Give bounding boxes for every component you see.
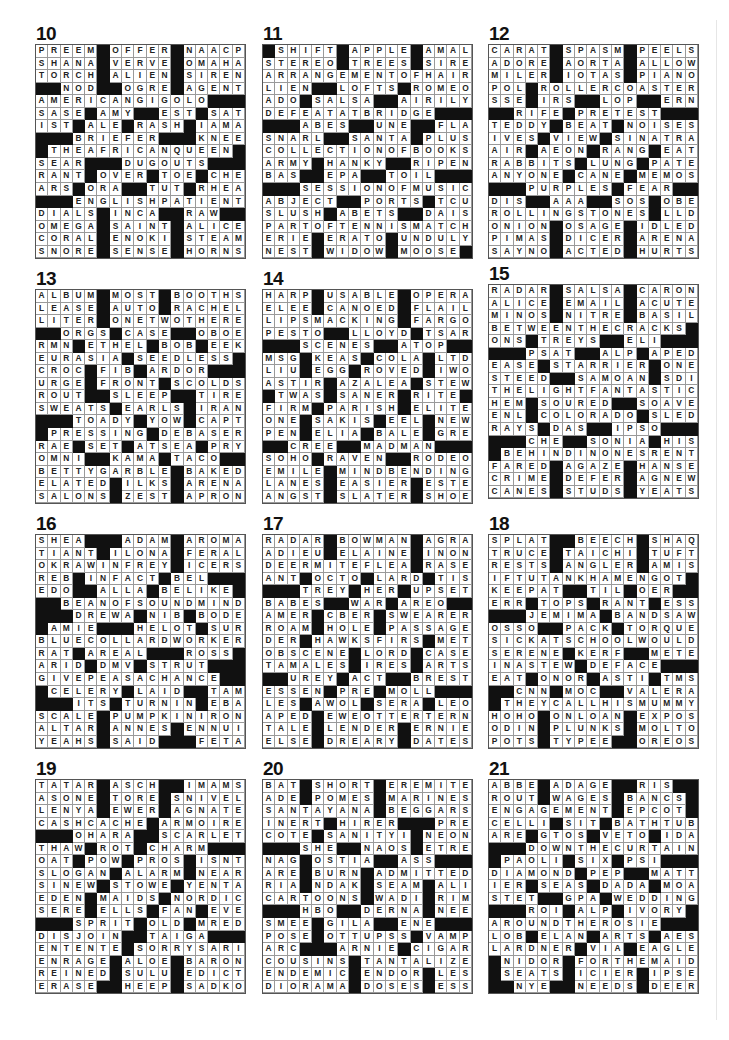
letter-cell: A	[110, 673, 122, 686]
letter-cell: W	[171, 635, 183, 648]
black-square	[398, 303, 410, 316]
black-square	[312, 246, 324, 259]
letter-cell: E	[48, 968, 60, 981]
letter-cell: U	[134, 698, 146, 711]
letter-cell: T	[538, 535, 550, 548]
letter-cell: G	[563, 893, 575, 906]
black-square	[36, 415, 48, 428]
letter-cell: G	[159, 95, 171, 108]
letter-cell: U	[526, 918, 538, 931]
black-square	[398, 83, 410, 96]
letter-cell: R	[398, 635, 410, 648]
letter-cell: I	[134, 70, 146, 83]
letter-cell: A	[48, 780, 60, 793]
letter-cell: A	[661, 158, 673, 171]
letter-cell: N	[435, 723, 447, 736]
letter-cell: L	[575, 83, 587, 96]
letter-cell: N	[538, 943, 550, 956]
letter-cell: E	[324, 711, 336, 724]
letter-cell: T	[386, 70, 398, 83]
black-square	[538, 423, 550, 436]
letter-cell: E	[673, 410, 685, 423]
black-square	[324, 943, 336, 956]
letter-cell: U	[374, 120, 386, 133]
letter-cell: H	[624, 956, 636, 969]
letter-cell: E	[208, 736, 220, 749]
letter-cell: E	[538, 298, 550, 311]
letter-cell: E	[661, 981, 673, 994]
letter-cell: O	[171, 623, 183, 636]
letter-cell: R	[447, 58, 459, 71]
letter-cell: Y	[386, 736, 398, 749]
letter-cell: E	[423, 478, 435, 491]
letter-cell: O	[263, 648, 275, 661]
letter-cell: O	[550, 83, 562, 96]
letter-cell: E	[649, 660, 661, 673]
black-square	[97, 233, 109, 246]
letter-cell: I	[649, 855, 661, 868]
letter-cell: S	[637, 398, 649, 411]
letter-cell: E	[275, 698, 287, 711]
letter-cell: K	[110, 453, 122, 466]
letter-cell: M	[489, 310, 501, 323]
black-square	[550, 893, 562, 906]
letter-cell: E	[208, 340, 220, 353]
letter-cell: N	[637, 133, 649, 146]
letter-cell: T	[575, 486, 587, 499]
letter-cell: L	[600, 95, 612, 108]
letter-cell: W	[337, 711, 349, 724]
letter-cell: S	[134, 905, 146, 918]
letter-cell: A	[460, 535, 472, 548]
letter-cell: M	[196, 780, 208, 793]
black-square	[411, 120, 423, 133]
letter-cell: E	[661, 95, 673, 108]
letter-cell: O	[526, 170, 538, 183]
letter-cell: E	[159, 328, 171, 341]
letter-cell: N	[48, 943, 60, 956]
letter-cell: D	[184, 598, 196, 611]
black-square	[324, 686, 336, 699]
letter-cell: M	[423, 780, 435, 793]
letter-cell: O	[460, 315, 472, 328]
letter-cell: O	[538, 246, 550, 259]
black-square	[649, 673, 661, 686]
letter-cell: B	[349, 208, 361, 221]
black-square	[624, 585, 636, 598]
letter-cell: V	[349, 453, 361, 466]
black-square	[550, 560, 562, 573]
letter-cell: A	[208, 45, 220, 58]
letter-cell: T	[661, 385, 673, 398]
crossword-grid: ALBUMMOSTBOOTHSLEASEAUTORACHELLITERONETW…	[35, 289, 246, 504]
letter-cell: O	[85, 183, 97, 196]
letter-cell: N	[159, 70, 171, 83]
letter-cell: A	[110, 70, 122, 83]
crossword-grid: SHIFTAPPLEAMALSTEREOTREESSIREARRANGEMENT…	[262, 44, 473, 259]
letter-cell: A	[600, 70, 612, 83]
puzzle-15: 15 RADARSALSACARONALICEEMAILACUTEMINOSNI…	[488, 264, 698, 499]
letter-cell: D	[550, 423, 562, 436]
black-square	[587, 348, 599, 361]
letter-cell: R	[386, 648, 398, 661]
black-square	[97, 303, 109, 316]
letter-cell: S	[159, 830, 171, 843]
letter-cell: R	[386, 818, 398, 831]
letter-cell: E	[526, 780, 538, 793]
letter-cell: C	[575, 170, 587, 183]
letter-cell: E	[48, 905, 60, 918]
letter-cell: B	[686, 818, 698, 831]
letter-cell: S	[134, 290, 146, 303]
black-square	[61, 830, 73, 843]
letter-cell: A	[324, 95, 336, 108]
letter-cell: O	[673, 736, 685, 749]
letter-cell: L	[324, 428, 336, 441]
letter-cell: O	[147, 956, 159, 969]
letter-cell: A	[435, 70, 447, 83]
letter-cell: E	[587, 918, 599, 931]
letter-cell: T	[526, 560, 538, 573]
letter-cell: O	[460, 365, 472, 378]
black-square	[550, 70, 562, 83]
letter-cell: P	[661, 711, 673, 724]
black-square	[48, 196, 60, 209]
letter-cell: L	[263, 478, 275, 491]
letter-cell: M	[661, 170, 673, 183]
